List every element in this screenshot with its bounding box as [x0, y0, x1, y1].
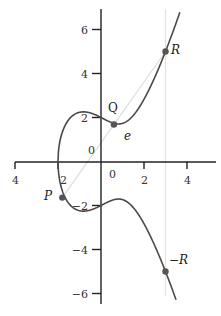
point-r: [162, 48, 168, 54]
point-label-p: P: [43, 189, 53, 203]
elliptic-curve-chart: 42024 642−2−4−6 P Q R −R e 0: [0, 0, 221, 316]
x-tick-label: 4: [184, 174, 191, 187]
x-tick-label: 0: [109, 168, 116, 181]
x-tick-label: 2: [141, 174, 148, 187]
point-q: [111, 121, 117, 127]
point-label-q: Q: [108, 101, 118, 115]
y-tick-label: −4: [72, 244, 88, 257]
point-label-neg-r: −R: [169, 253, 188, 267]
origin-label-left: 0: [88, 144, 95, 157]
y-tick-label: 4: [81, 68, 88, 81]
y-tick-label: 2: [81, 112, 88, 125]
point-label-r: R: [170, 43, 180, 57]
y-tick-label: 6: [81, 24, 88, 37]
point-neg-r: [162, 268, 168, 274]
y-tick-label: −6: [72, 288, 88, 301]
x-tick-label: 4: [12, 174, 19, 187]
elliptic-curve: [58, 12, 180, 300]
point-p: [59, 194, 65, 200]
annotation-e: e: [124, 129, 131, 143]
